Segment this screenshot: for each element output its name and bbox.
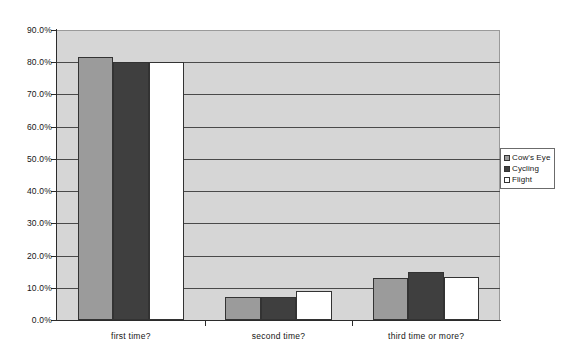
bar-chart-figure: 0.0%10.0%20.0%30.0%40.0%50.0%60.0%70.0%8… [0, 0, 577, 354]
y-axis-tick-label: 80.0% [0, 58, 52, 67]
x-axis-category-label: third time or more? [388, 331, 464, 341]
bar [149, 62, 184, 320]
legend-label: Flight [512, 176, 532, 184]
x-axis-tick-mark [352, 320, 353, 326]
legend-entry: Cow's Eye [504, 152, 550, 163]
chart-legend: Cow's EyeCyclingFlight [500, 148, 555, 189]
y-axis-tick-label: 20.0% [0, 251, 52, 260]
legend-swatch-icon [504, 166, 510, 172]
legend-swatch-icon [504, 177, 510, 183]
legend-label: Cycling [512, 165, 539, 173]
y-axis-tick-label: 30.0% [0, 219, 52, 228]
y-axis-tick-label: 40.0% [0, 187, 52, 196]
x-axis-line [56, 320, 501, 321]
bar [78, 57, 113, 320]
bar [373, 278, 408, 320]
bar [261, 297, 296, 320]
legend-entry: Flight [504, 174, 550, 185]
bar [408, 272, 443, 320]
y-axis-line [56, 29, 57, 321]
y-axis-tick-label: 60.0% [0, 122, 52, 131]
bar [444, 277, 479, 321]
y-axis-tick-label: 0.0% [0, 316, 52, 325]
bar [225, 297, 260, 320]
y-axis-tick-label: 50.0% [0, 155, 52, 164]
bar [296, 291, 331, 320]
x-axis-tick-mark [205, 320, 206, 326]
y-axis-tick-label: 10.0% [0, 284, 52, 293]
legend-entry: Cycling [504, 163, 550, 174]
legend-swatch-icon [504, 155, 510, 161]
bar [113, 62, 148, 320]
legend-label: Cow's Eye [512, 154, 550, 162]
y-axis-tick-label: 70.0% [0, 90, 52, 99]
x-axis-category-label: first time? [111, 331, 151, 341]
x-axis-category-label: second time? [252, 331, 306, 341]
y-axis-tick-label: 90.0% [0, 26, 52, 35]
